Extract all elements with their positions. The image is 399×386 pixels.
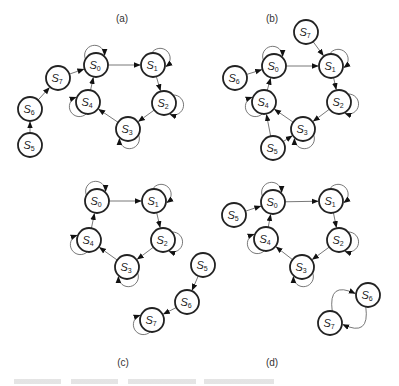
state-node-S7: S7 — [294, 20, 318, 44]
panels-layer: S0S1S2S3S4S7S6S5S0S1S2S3S4S6S7S5S0S1S2S3… — [18, 20, 380, 335]
state-node-S3: S3 — [291, 117, 315, 141]
transition-S4-S0 — [267, 79, 270, 91]
transition-S2-S3 — [137, 247, 153, 259]
state-node-S1: S1 — [319, 189, 343, 213]
transition-S4-S0 — [91, 78, 94, 91]
transition-S3-S4 — [275, 109, 293, 122]
state-node-S7: S7 — [46, 66, 70, 90]
state-node-S6: S6 — [223, 66, 247, 90]
transition-S6-S0 — [246, 70, 261, 75]
state-node-S6: S6 — [356, 283, 380, 307]
panel-a: S0S1S2S3S4S7S6S5 — [18, 45, 184, 157]
state-node-S6: S6 — [18, 97, 42, 121]
transition-S0-S1 — [285, 201, 318, 202]
transition-S5-S4 — [266, 115, 270, 136]
transition-S2-S3 — [139, 110, 155, 121]
state-node-S0: S0 — [85, 189, 109, 213]
state-node-S5: S5 — [222, 203, 246, 227]
transition-S7-S6 — [332, 290, 355, 312]
state-node-S4: S4 — [252, 90, 276, 114]
transition-S4-S0 — [91, 214, 94, 229]
state-node-S1: S1 — [319, 54, 343, 78]
transition-S2-S3 — [313, 247, 330, 259]
state-node-S0: S0 — [84, 53, 108, 77]
transition-S6-S7 — [343, 307, 366, 329]
figure-caption-cropped — [14, 379, 274, 384]
state-node-S1: S1 — [141, 53, 165, 77]
state-node-S2: S2 — [327, 228, 351, 252]
state-node-S3: S3 — [290, 255, 314, 279]
panel-b: S0S1S2S3S4S6S7S5 — [223, 20, 359, 160]
transition-S7-S1 — [313, 42, 323, 56]
state-node-S5: S5 — [191, 253, 215, 277]
transition-S6-S7 — [38, 88, 49, 100]
state-node-S3: S3 — [116, 117, 140, 141]
transition-S5-S0 — [245, 206, 260, 211]
state-node-S5: S5 — [261, 136, 285, 160]
panel-label-c: (c) — [117, 357, 129, 368]
panel-c: S0S1S2S3S4S5S6S7 — [70, 181, 215, 334]
state-node-S4: S4 — [254, 227, 278, 251]
transition-S3-S4 — [99, 109, 118, 122]
transition-S1-S2 — [334, 78, 337, 90]
state-node-S4: S4 — [77, 228, 101, 252]
state-node-S2: S2 — [327, 90, 351, 114]
panel-d: S0S1S2S3S4S5S6S7 — [222, 182, 380, 335]
panel-label-d: (d) — [266, 357, 278, 368]
panel-label-b: (b) — [266, 13, 278, 24]
state-node-S2: S2 — [151, 228, 175, 252]
state-node-S3: S3 — [115, 255, 139, 279]
transition-S3-S4 — [276, 247, 292, 260]
state-node-S4: S4 — [76, 90, 100, 114]
transition-S3-S4 — [100, 248, 118, 261]
state-node-S6: S6 — [175, 290, 199, 314]
state-node-S1: S1 — [142, 189, 166, 213]
transition-S1-S2 — [333, 213, 336, 228]
transition-S4-S0 — [268, 215, 270, 227]
transition-S2-S3 — [313, 109, 329, 121]
state-node-S5: S5 — [18, 133, 42, 157]
transition-S1-S2 — [157, 213, 160, 228]
panel-label-a: (a) — [116, 13, 128, 24]
state-node-S7: S7 — [140, 308, 164, 332]
transition-S1-S2 — [156, 77, 160, 91]
transition-S5-S6 — [192, 276, 198, 290]
transition-S6-S7 — [164, 307, 177, 314]
state-node-S2: S2 — [152, 91, 176, 115]
state-diagram-canvas: S0S1S2S3S4S7S6S5S0S1S2S3S4S6S7S5S0S1S2S3… — [0, 0, 399, 386]
state-node-S0: S0 — [261, 190, 285, 214]
transition-S7-S0 — [69, 69, 83, 74]
state-node-S7: S7 — [318, 311, 342, 335]
state-node-S0: S0 — [262, 54, 286, 78]
transition-S5-S3 — [283, 136, 292, 142]
